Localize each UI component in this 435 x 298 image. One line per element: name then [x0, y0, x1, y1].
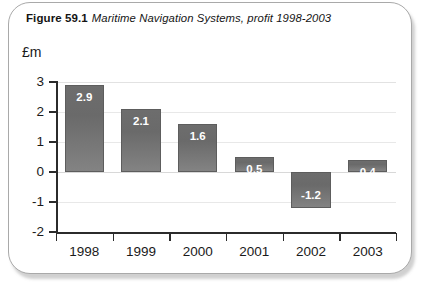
x-axis-tick: [283, 233, 284, 241]
bar-value-label: 2.1: [121, 116, 161, 128]
plot-area: [56, 82, 396, 232]
x-axis-tick: [396, 233, 397, 241]
gridline: [56, 112, 396, 113]
x-axis-tick: [56, 233, 57, 241]
y-axis-tick: [49, 171, 57, 173]
gridline: [56, 142, 396, 143]
x-axis-label: 2000: [169, 245, 226, 259]
y-axis-line: [56, 81, 58, 233]
y-axis-tick: [49, 201, 57, 203]
x-axis-label: 2002: [283, 245, 340, 259]
x-axis-label: 2001: [226, 245, 283, 259]
x-axis-label: 2003: [339, 245, 396, 259]
gridline: [56, 172, 396, 173]
gridline: [56, 202, 396, 203]
bar-value-label: 1.6: [178, 131, 218, 143]
x-axis-tick: [113, 233, 114, 241]
x-axis-tick: [339, 233, 340, 241]
bar-chart: 3210-1-22.919982.119991.620000.52001-1.2…: [0, 0, 435, 298]
y-axis-label: -2: [32, 225, 44, 239]
y-axis-tick: [49, 111, 57, 113]
y-axis-label: 2: [36, 105, 44, 119]
bar-value-label: -1.2: [291, 190, 331, 202]
x-axis-label: 1998: [56, 245, 113, 259]
y-axis-label: 3: [36, 75, 44, 89]
x-axis-tick: [169, 233, 170, 241]
y-axis-label: 0: [36, 165, 44, 179]
bar-value-label: 0.4: [348, 167, 388, 179]
y-axis-tick: [49, 81, 57, 83]
x-axis-label: 1999: [113, 245, 170, 259]
bar-value-label: 0.5: [235, 164, 275, 176]
y-axis-label: 1: [36, 135, 44, 149]
x-axis-tick: [226, 233, 227, 241]
gridline: [56, 82, 396, 83]
y-axis-tick: [49, 141, 57, 143]
y-axis-label: -1: [32, 195, 44, 209]
bar-value-label: 2.9: [65, 92, 105, 104]
